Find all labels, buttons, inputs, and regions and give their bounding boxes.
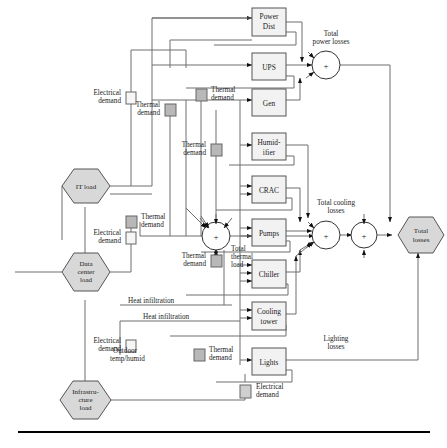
label-outdoor-temp-humid-0: Outdoor — [113, 347, 138, 355]
label-total-thermal-load-1: thermal — [231, 253, 253, 261]
block-gen-label: Gen — [263, 99, 276, 108]
label-electrical-demand-bottom-0: Electrical — [256, 383, 284, 391]
block-gen[interactable]: Gen — [252, 89, 286, 116]
marker-electrical-demand-bottom[interactable] — [240, 385, 251, 398]
block-ups-label: UPS — [262, 63, 276, 72]
junction-total-cooling-losses-symbol: + — [323, 231, 328, 241]
label-lighting-losses-1: losses — [327, 343, 344, 351]
block-lights-label: Lights — [260, 358, 279, 367]
label-total-thermal-load-2: load — [231, 261, 244, 269]
junction-total-thermal-load-symbol: + — [213, 232, 218, 242]
label-lighting-losses-0: Lighting — [324, 335, 349, 343]
label-heat-infiltration-1: Heat infiltration — [128, 297, 175, 305]
block-chiller-label: Chiller — [259, 270, 280, 279]
hexagon-data-center-load-label-2: load — [80, 276, 93, 284]
label-electrical-demand-infra-0: Electrical — [93, 337, 121, 345]
label-thermal-demand-mid-right-1: demand — [183, 149, 206, 157]
label-thermal-demand-center-1: demand — [183, 260, 206, 268]
label-electrical-demand-it-0: Electrical — [93, 89, 121, 97]
block-lights[interactable]: Lights — [252, 348, 286, 375]
junction-total-power-losses[interactable]: + — [312, 51, 340, 79]
label-total-thermal-load-0: Total — [231, 245, 246, 253]
marker-thermal-demand-mid-right[interactable] — [211, 144, 222, 156]
block-crac[interactable]: CRAC — [252, 176, 286, 203]
block-pumps-label: Pumps — [259, 229, 279, 238]
marker-thermal-demand-left[interactable] — [126, 216, 137, 228]
block-humidifier[interactable]: Humid- ifier — [252, 133, 286, 160]
label-thermal-demand-it-1: demand — [137, 109, 160, 117]
label-heat-infiltration-2: Heat infiltration — [143, 313, 190, 321]
marker-thermal-demand-upper-right[interactable] — [196, 89, 207, 101]
label-thermal-demand-it-0: Thermal — [136, 101, 160, 109]
label-electrical-demand-bottom-1: demand — [256, 391, 279, 399]
block-chiller[interactable]: Chiller — [252, 260, 286, 288]
label-thermal-demand-upper-right-1: demand — [211, 94, 234, 102]
label-total-cooling-losses-1: losses — [327, 207, 344, 215]
hexagon-it-load-label: IT load — [76, 183, 97, 191]
label-electrical-demand-it-1: demand — [98, 97, 121, 105]
label-thermal-demand-bottom-1: demand — [209, 354, 232, 362]
marker-thermal-demand-center[interactable] — [211, 255, 222, 267]
junction-total-sum[interactable]: + — [351, 222, 377, 248]
junction-total-power-losses-symbol: + — [323, 61, 328, 71]
junction-total-sum-symbol: + — [361, 231, 366, 241]
hexagon-data-center-load-label-1: center — [77, 268, 95, 276]
label-thermal-demand-mid-right-0: Thermal — [182, 141, 206, 149]
block-ups[interactable]: UPS — [252, 53, 286, 80]
marker-electrical-demand-it[interactable] — [126, 92, 136, 104]
block-power-dist[interactable]: Power Dist — [252, 8, 286, 36]
block-humidifier-label-1: ifier — [263, 148, 276, 157]
block-cooling-tower-label-0: Cooling — [257, 307, 281, 316]
label-thermal-demand-left-0: Thermal — [141, 213, 165, 221]
block-humidifier-label-0: Humid- — [258, 138, 282, 147]
label-thermal-demand-upper-right-0: Thermal — [211, 86, 235, 94]
label-total-power-losses-1: power losses — [313, 38, 350, 46]
block-cooling-tower[interactable]: Cooling tower — [252, 302, 286, 330]
hexagon-infrastructure-load-label-0: Infrastru- — [72, 388, 99, 396]
hexagon-infrastructure-load-label-1: cture — [79, 396, 93, 404]
marker-electrical-demand-dc[interactable] — [126, 232, 136, 244]
hexagon-data-center-load[interactable]: Data center load — [62, 253, 110, 291]
label-thermal-demand-left-1: demand — [141, 221, 164, 229]
connector-lines — [15, 18, 418, 400]
summing-junctions: + + + + — [202, 51, 377, 250]
label-electrical-demand-dc-1: demand — [98, 237, 121, 245]
block-diagram: Power Dist UPS Gen Humid- ifier CRAC Pum… — [0, 0, 447, 448]
block-power-dist-label-0: Power — [260, 12, 279, 21]
hexagon-total-losses-label-0: Total — [414, 227, 428, 235]
figure-canvas: Power Dist UPS Gen Humid- ifier CRAC Pum… — [0, 0, 447, 448]
marker-thermal-demand-it[interactable] — [165, 104, 176, 116]
process-blocks: Power Dist UPS Gen Humid- ifier CRAC Pum… — [252, 8, 286, 375]
block-power-dist-label-1: Dist — [263, 22, 276, 31]
hexagon-infrastructure-load[interactable]: Infrastru- cture load — [60, 381, 111, 419]
block-crac-label: CRAC — [259, 186, 279, 195]
hexagon-data-center-load-label-0: Data — [79, 260, 93, 268]
label-thermal-demand-center-0: Thermal — [182, 252, 206, 260]
hexagon-infrastructure-load-label-2: load — [79, 404, 92, 412]
junction-total-cooling-losses[interactable]: + — [312, 221, 340, 249]
hexagon-total-losses[interactable]: Total losses — [398, 217, 444, 253]
label-total-cooling-losses-0: Total cooling — [317, 199, 355, 207]
label-thermal-demand-bottom-0: Thermal — [209, 346, 233, 354]
label-outdoor-temp-humid-1: temp/humid — [110, 355, 145, 363]
marker-thermal-demand-bottom[interactable] — [194, 349, 205, 361]
label-total-power-losses-0: Total — [324, 30, 339, 38]
label-electrical-demand-dc-0: Electrical — [93, 229, 121, 237]
hexagon-it-load[interactable]: IT load — [62, 169, 110, 203]
block-cooling-tower-label-1: tower — [261, 317, 278, 326]
hexagon-total-losses-label-1: losses — [413, 236, 430, 244]
block-pumps[interactable]: Pumps — [252, 219, 286, 246]
